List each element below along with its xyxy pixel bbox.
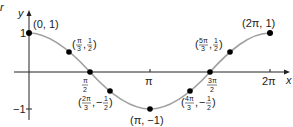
x-tick-2pi: 2π [262, 75, 276, 87]
x-tick-pi: π [145, 75, 153, 87]
point-pi3-half [66, 49, 72, 55]
svg-text:3: 3 [201, 45, 205, 52]
svg-text:1: 1 [88, 37, 92, 44]
svg-text:,: , [209, 38, 212, 50]
svg-text:2: 2 [83, 86, 87, 93]
y-axis-arrow-icon [27, 10, 32, 16]
svg-text:2: 2 [214, 45, 218, 52]
label-3pi2: 3π2 [207, 77, 217, 93]
svg-text:2: 2 [207, 104, 211, 111]
svg-text:−: − [199, 96, 205, 108]
y-axis-label: y [17, 7, 25, 19]
svg-text:3π: 3π [208, 77, 217, 84]
svg-text:): ) [109, 96, 113, 108]
svg-text:1: 1 [207, 95, 211, 102]
svg-text:2π: 2π [82, 95, 91, 102]
label-pi-neg1: (π, −1) [130, 114, 164, 126]
point-4pi3-neg-half [187, 88, 193, 94]
label-pi3-half: ( π3 , 12 ) [72, 37, 97, 52]
svg-text:,: , [195, 96, 198, 108]
svg-text:3: 3 [77, 45, 81, 52]
label-4pi3-neg-half: ( 4π3 , − 12 ) [181, 95, 216, 111]
label-2pi-1: (2π, 1) [242, 17, 275, 29]
svg-text:2: 2 [104, 104, 108, 111]
svg-text:): ) [219, 38, 223, 50]
svg-text:π: π [83, 77, 88, 84]
point-5pi3-half [227, 49, 233, 55]
svg-text:2: 2 [88, 45, 92, 52]
point-pi-neg1 [147, 106, 153, 112]
point-0-1 [26, 30, 32, 36]
svg-text:−: − [96, 96, 102, 108]
x-axis-label: x [285, 74, 292, 86]
y-tick-minus-1: −1 [13, 103, 26, 115]
svg-text:5π: 5π [199, 37, 208, 44]
svg-text:π: π [77, 37, 82, 44]
svg-text:2: 2 [210, 86, 214, 93]
point-2pi3-neg-half [107, 88, 113, 94]
label-pi2: π2 [82, 77, 88, 93]
corner-text: r [0, 1, 5, 13]
point-pi2-0 [87, 69, 93, 75]
svg-text:(: ( [72, 38, 76, 50]
cosine-graph: r y x 1 −1 π 2π (0, 1) (π, −1) (2π, 1) (… [0, 0, 293, 127]
svg-text:3: 3 [187, 104, 191, 111]
svg-text:1: 1 [214, 37, 218, 44]
svg-text:): ) [93, 38, 97, 50]
y-tick-1: 1 [20, 27, 26, 39]
point-3pi2-0 [207, 69, 213, 75]
svg-text:3: 3 [84, 104, 88, 111]
svg-text:4π: 4π [185, 95, 194, 102]
svg-text:1: 1 [104, 95, 108, 102]
label-2pi3-neg-half: ( 2π3 , − 12 ) [78, 95, 113, 111]
label-5pi3-half: ( 5π3 , 12 ) [195, 37, 223, 52]
point-2pi-1 [267, 30, 273, 36]
svg-text:): ) [212, 96, 216, 108]
svg-text:,: , [92, 96, 95, 108]
label-0-1: (0, 1) [33, 18, 59, 30]
svg-text:,: , [83, 38, 86, 50]
